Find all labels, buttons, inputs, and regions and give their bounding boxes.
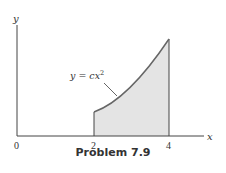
y-axis-label: y xyxy=(12,13,19,24)
label-leader-line xyxy=(104,83,117,96)
shaded-region xyxy=(94,39,169,136)
x-axis-label: x xyxy=(207,131,213,142)
function-label: y = cx2 xyxy=(69,69,104,81)
figure-caption: Problem 7.9 xyxy=(0,146,226,159)
